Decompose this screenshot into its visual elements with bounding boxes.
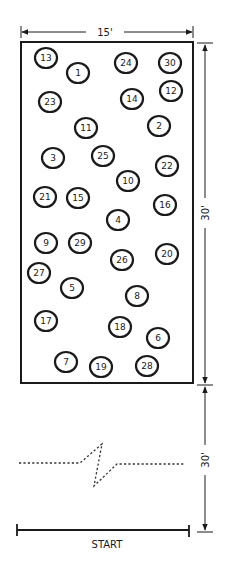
- cone-number: 12: [165, 86, 176, 96]
- cone-number: 28: [141, 361, 153, 371]
- approach-length-dimension: 30': [197, 387, 213, 532]
- cone-marker: 25: [92, 146, 114, 166]
- cone-number: 8: [134, 291, 140, 301]
- cone-marker: 4: [107, 210, 129, 230]
- cone-number: 25: [97, 151, 108, 161]
- cone-marker: 21: [34, 187, 56, 207]
- cone-marker: 30: [159, 53, 181, 73]
- cone-number: 4: [115, 215, 121, 225]
- distance-break-line: [19, 444, 185, 486]
- cone-number: 11: [80, 123, 91, 133]
- cone-number: 24: [120, 58, 132, 68]
- cone-number: 10: [122, 176, 134, 186]
- cone-marker: 1: [67, 63, 89, 83]
- cone-marker: 15: [67, 188, 89, 208]
- cone-number: 13: [40, 53, 51, 63]
- cone-number: 2: [156, 121, 162, 131]
- cone-marker: 28: [136, 356, 158, 376]
- cone-marker: 5: [61, 278, 83, 298]
- cone-marker: 27: [28, 263, 50, 283]
- cone-marker: 9: [35, 233, 57, 253]
- cone-number: 20: [161, 249, 173, 259]
- cone-group: 1312430121423112325221021151649292026275…: [28, 48, 182, 377]
- cone-drill-diagram: 15' 131243012142311232522102115164929202…: [0, 0, 225, 566]
- cone-number: 27: [33, 268, 44, 278]
- width-label: 15': [97, 27, 112, 38]
- start-line: START: [17, 524, 189, 550]
- cone-marker: 2: [148, 116, 170, 136]
- cone-number: 19: [95, 362, 107, 372]
- cone-marker: 13: [35, 48, 57, 68]
- cone-number: 23: [44, 97, 55, 107]
- cone-marker: 8: [126, 286, 148, 306]
- cone-number: 17: [40, 316, 51, 326]
- cone-marker: 11: [75, 118, 97, 138]
- cone-marker: 29: [69, 233, 91, 253]
- cone-number: 26: [116, 255, 128, 265]
- course-length-label: 30': [200, 205, 211, 220]
- cone-marker: 23: [39, 92, 61, 112]
- cone-number: 9: [43, 238, 49, 248]
- cone-marker: 17: [35, 311, 57, 331]
- approach-length-label: 30': [200, 452, 211, 467]
- cone-number: 18: [114, 322, 126, 332]
- cone-marker: 18: [109, 317, 131, 337]
- cone-marker: 10: [117, 171, 139, 191]
- cone-marker: 7: [55, 352, 77, 372]
- course-length-dimension: 30': [197, 43, 213, 385]
- cone-number: 29: [74, 238, 86, 248]
- width-dimension: 15': [21, 26, 193, 38]
- cone-number: 14: [126, 94, 138, 104]
- cone-marker: 24: [115, 53, 137, 73]
- cone-marker: 3: [42, 148, 64, 168]
- cone-number: 6: [155, 333, 161, 343]
- cone-number: 30: [164, 58, 176, 68]
- cone-number: 22: [161, 161, 172, 171]
- cone-marker: 16: [154, 195, 176, 215]
- cone-marker: 19: [90, 357, 112, 377]
- cone-number: 1: [75, 68, 81, 78]
- cone-number: 7: [63, 357, 69, 367]
- cone-marker: 20: [156, 244, 178, 264]
- cone-marker: 14: [121, 89, 143, 109]
- cone-marker: 6: [147, 328, 169, 348]
- cone-number: 5: [69, 283, 75, 293]
- cone-marker: 22: [156, 156, 178, 176]
- start-label: START: [92, 539, 124, 550]
- cone-number: 15: [72, 193, 83, 203]
- cone-marker: 26: [111, 250, 133, 270]
- cone-number: 21: [39, 192, 50, 202]
- cone-marker: 12: [160, 81, 182, 101]
- cone-number: 3: [50, 153, 56, 163]
- cone-number: 16: [159, 200, 171, 210]
